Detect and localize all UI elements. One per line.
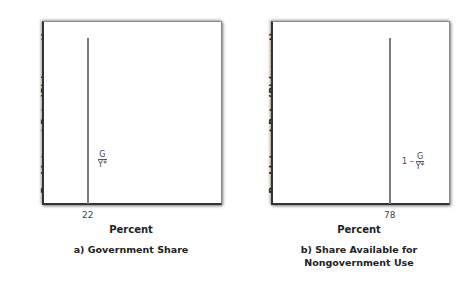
panel-government-share: Real Interest Rate (R) (percent) GY* 22 …: [0, 0, 238, 283]
plot-area: [42, 21, 222, 205]
label-denominator: Y*: [416, 162, 425, 171]
label-numerator: G: [416, 152, 424, 162]
caption-line-1: b) Share Available for: [259, 243, 459, 256]
label-numerator: G: [98, 150, 106, 160]
panel-nongovernment-share: Real Interest Rate (R) (percent) 1 – GY*…: [236, 0, 474, 283]
x-tick-label: 78: [384, 210, 395, 220]
plot-area: [271, 21, 450, 205]
share-line-label: GY*: [98, 150, 107, 169]
caption-line-1: a) Government Share: [31, 243, 231, 256]
share-line: [87, 38, 89, 204]
x-tick-label: 22: [82, 210, 93, 220]
share-line-label: 1 – GY*: [402, 152, 425, 171]
x-axis-label: Percent: [31, 224, 231, 235]
panel-caption: b) Share Available for Nongovernment Use: [259, 243, 459, 269]
label-prefix: 1 –: [402, 157, 414, 166]
panel-caption: a) Government Share: [31, 243, 231, 256]
share-line: [389, 38, 391, 204]
caption-line-2: Nongovernment Use: [259, 256, 459, 269]
label-denominator: Y*: [98, 160, 107, 169]
x-axis-label: Percent: [259, 224, 459, 235]
